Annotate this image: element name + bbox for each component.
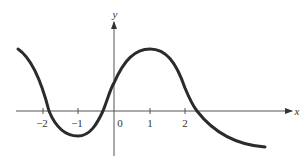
tick-label-neg2: −2 [36,117,48,129]
function-graph: −2 −1 0 1 2 x y [0,0,300,163]
tick-label-neg1: −1 [71,117,83,129]
tick-label-2: 2 [182,117,188,129]
x-axis-label: x [294,105,300,117]
tick-label-0: 0 [117,117,123,129]
y-axis-label: y [112,8,118,20]
tick-label-1: 1 [147,117,153,129]
function-curve [18,49,265,147]
